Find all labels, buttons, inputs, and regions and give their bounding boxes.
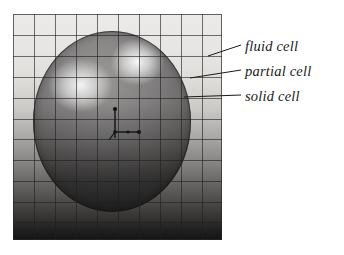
callout-label-partial-cell: partial cell [245, 64, 311, 79]
sphere-outline [33, 31, 191, 212]
grid-panel [13, 14, 222, 240]
callout-label-fluid-cell: fluid cell [245, 39, 298, 54]
figure-container: fluid cell partial cell solid cell [0, 0, 344, 255]
callout-label-solid-cell: solid cell [245, 89, 300, 104]
sphere [33, 31, 191, 212]
